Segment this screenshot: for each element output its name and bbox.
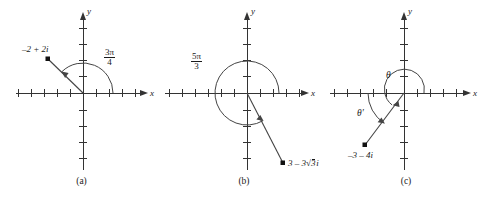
plotted-point [363,143,368,148]
y-axis-arrow [401,12,407,20]
point-label-prefix: 3 – 3 [288,158,306,168]
panel-c: x y θ θ′ –3 – 4i (c) [325,0,487,202]
x-axis-label: x [150,88,154,98]
plotted-point [281,161,286,166]
angle-arc-arrow [62,72,69,79]
panel-caption: (a) [0,176,163,186]
point-label: 3 – 3√3 i [288,158,319,168]
radicand: 3 [311,158,316,168]
square-root-icon: √3 [306,158,315,168]
panel-b: x y 5π 3 3 – 3√3 i (b) [163,0,325,202]
y-axis-arrow [80,12,86,20]
panel-b-graph [163,0,325,202]
angle-label-fraction: 3π 4 [104,48,115,68]
ray-to-point [247,93,283,163]
radical-bar [312,159,315,160]
point-label: –2 + 2i [22,44,49,54]
x-axis-arrow [463,90,471,96]
panel-caption: (c) [325,176,487,186]
angle-numerator: 3π [104,48,115,57]
panel-c-graph [325,0,487,202]
x-axis-label: x [473,88,477,98]
angle-arc-arrow [256,115,263,121]
point-label: –3 – 4i [348,150,373,160]
ray-to-point [365,93,404,145]
x-axis-label: x [311,88,315,98]
angle-numerator: 5π [191,52,202,61]
x-axis-arrow [140,90,148,96]
panel-a-graph [0,0,163,202]
panel-a: x y –2 + 2i 3π 4 (a) [0,0,163,202]
angle-denominator: 3 [191,61,202,71]
reference-angle-label-theta-prime: θ′ [357,108,364,118]
plotted-point [46,57,51,62]
complex-plane-figure: x y –2 + 2i 3π 4 (a) [0,0,487,202]
angle-denominator: 4 [104,57,115,67]
imaginary-unit: i [316,158,319,168]
angle-label-theta: θ [386,70,391,80]
y-axis-label: y [408,6,412,16]
angle-label-fraction: 5π 3 [191,52,202,72]
y-axis-arrow [244,12,250,20]
y-axis-label: y [87,6,91,16]
panel-caption: (b) [163,176,325,186]
y-axis-label: y [251,6,255,16]
x-axis-arrow [301,90,309,96]
